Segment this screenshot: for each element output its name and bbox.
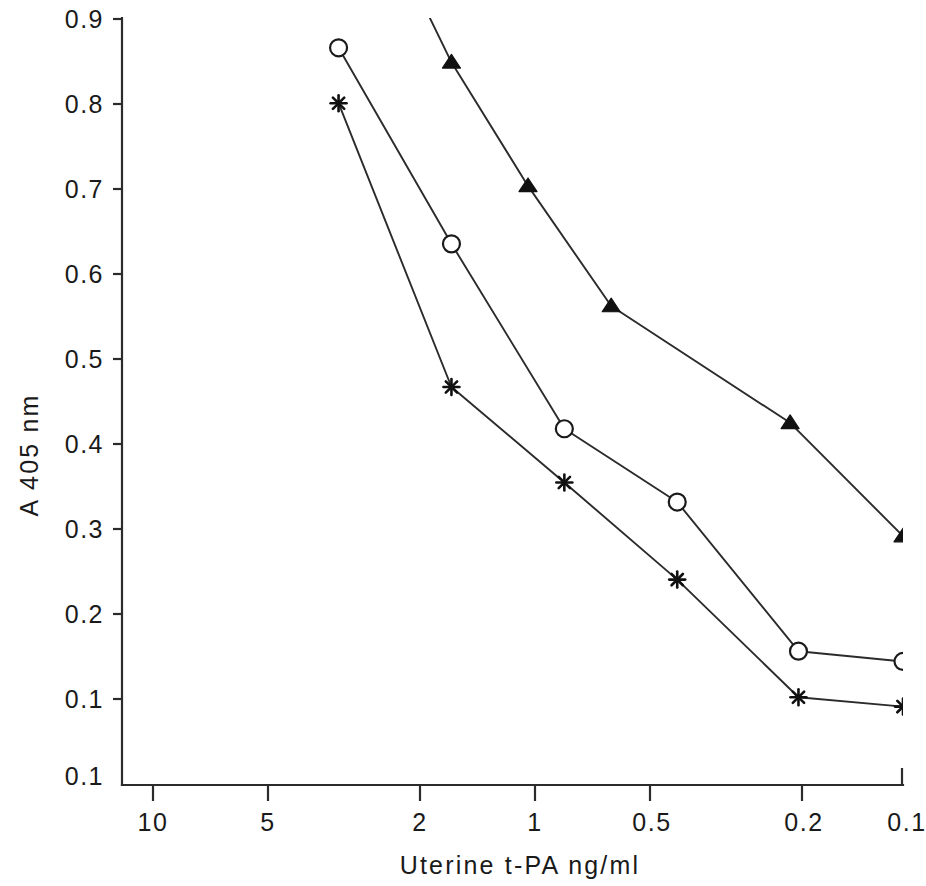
chart-canvas: 0.9 0.8 0.7 0.6 0.5 0.4 0.3 0.2 0.1 0.1 … <box>0 0 926 886</box>
asterisk-core <box>796 695 801 700</box>
data-point-triangle-marker <box>602 298 620 312</box>
series-layer <box>330 14 912 715</box>
data-point-asterisk-marker <box>790 689 806 705</box>
data-point-asterisk-marker <box>556 474 572 490</box>
y-axis-title: A 405 nm <box>15 393 43 516</box>
x-axis-ticks <box>153 785 802 801</box>
series-filled-triangle-series <box>428 14 912 542</box>
y-tick-label: 0.1 <box>65 685 104 713</box>
data-point-circle-marker <box>556 420 573 437</box>
x-tick-label: 0.1 <box>887 808 926 836</box>
x-tick-label: 0.5 <box>632 808 671 836</box>
data-point-triangle-marker <box>781 415 799 429</box>
data-point-circle-marker <box>330 39 347 56</box>
asterisk-core <box>562 480 567 485</box>
y-tick-label: 0.8 <box>65 90 104 118</box>
y-tick-label: 0.1 <box>65 762 104 790</box>
data-point-circle-marker <box>443 235 460 252</box>
x-tick-label: 2 <box>412 808 427 836</box>
series-open-circle-series <box>330 39 911 670</box>
asterisk-core <box>900 704 905 709</box>
x-tick-label: 5 <box>260 808 275 836</box>
series-line-0 <box>428 14 903 536</box>
y-tick-label: 0.4 <box>65 430 104 458</box>
y-tick-label: 0.5 <box>65 345 104 373</box>
data-point-asterisk-marker <box>895 699 911 715</box>
data-point-circle-marker <box>895 653 912 670</box>
data-point-triangle-marker <box>519 178 537 192</box>
chart-figure: 0.9 0.8 0.7 0.6 0.5 0.4 0.3 0.2 0.1 0.1 … <box>0 0 926 886</box>
data-point-circle-marker <box>790 643 807 660</box>
data-point-circle-marker <box>669 494 686 511</box>
y-axis-ticks <box>113 104 122 699</box>
data-point-asterisk-marker <box>669 572 685 588</box>
x-tick-label: 10 <box>138 808 169 836</box>
y-tick-label: 0.3 <box>65 515 104 543</box>
y-tick-label: 0.9 <box>65 5 104 33</box>
asterisk-core <box>449 384 454 389</box>
axes-frame <box>113 18 903 785</box>
x-axis-tick-labels: 10 5 2 1 0.5 0.2 0.1 <box>138 808 926 836</box>
y-tick-label: 0.6 <box>65 260 104 288</box>
x-tick-label: 1 <box>527 808 542 836</box>
y-tick-label: 0.7 <box>65 175 104 203</box>
data-point-asterisk-marker <box>443 379 459 395</box>
x-axis-title: Uterine t-PA ng/ml <box>400 851 641 879</box>
data-point-asterisk-marker <box>331 95 347 111</box>
y-tick-label: 0.2 <box>65 600 104 628</box>
asterisk-core <box>336 101 341 106</box>
x-tick-label: 0.2 <box>784 808 823 836</box>
series-asterisk-series <box>331 95 911 714</box>
asterisk-core <box>675 577 680 582</box>
y-axis-tick-labels: 0.9 0.8 0.7 0.6 0.5 0.4 0.3 0.2 0.1 0.1 <box>65 5 104 790</box>
series-line-1 <box>339 48 903 662</box>
data-point-triangle-marker <box>442 54 460 68</box>
